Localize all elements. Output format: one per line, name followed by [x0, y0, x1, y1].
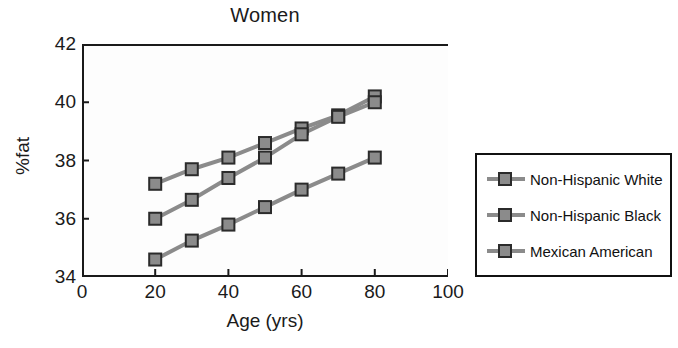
data-point-marker — [296, 184, 308, 196]
data-point-marker — [369, 96, 381, 108]
plot-area — [82, 44, 448, 277]
legend-label: Non-Hispanic White — [530, 171, 663, 188]
x-tick-label: 0 — [57, 282, 107, 301]
data-point-marker — [332, 111, 344, 123]
y-axis-title: %fat — [12, 116, 34, 196]
x-tick-label: 20 — [130, 282, 180, 301]
data-point-marker — [259, 152, 271, 164]
chart-legend: Non-Hispanic WhiteNon-Hispanic BlackMexi… — [475, 153, 672, 277]
data-point-marker — [222, 219, 234, 231]
data-point-marker — [222, 152, 234, 164]
legend-item-1[interactable]: Non-Hispanic Black — [487, 202, 670, 228]
legend-swatch-icon — [487, 171, 525, 187]
legend-marker-icon — [498, 172, 512, 186]
legend-label: Mexican American — [530, 243, 653, 260]
x-axis-title: Age (yrs) — [82, 310, 448, 332]
data-point-marker — [296, 128, 308, 140]
data-point-marker — [186, 194, 198, 206]
data-point-marker — [222, 172, 234, 184]
chart-figure: Women %fat 3436384042 020406080100 Age (… — [0, 0, 678, 348]
chart-title: Women — [82, 4, 448, 27]
y-tick-label: 38 — [40, 151, 76, 170]
y-tick-label: 42 — [40, 34, 76, 53]
data-point-marker — [149, 254, 161, 266]
data-point-marker — [259, 137, 271, 149]
legend-item-2[interactable]: Mexican American — [487, 238, 670, 264]
data-point-marker — [149, 178, 161, 190]
data-point-marker — [186, 163, 198, 175]
y-tick-label: 40 — [40, 92, 76, 111]
legend-item-0[interactable]: Non-Hispanic White — [487, 166, 670, 192]
legend-marker-icon — [498, 208, 512, 222]
legend-swatch-icon — [487, 207, 525, 223]
x-tick-label: 40 — [203, 282, 253, 301]
legend-marker-icon — [498, 244, 512, 258]
legend-swatch-icon — [487, 243, 525, 259]
legend-label: Non-Hispanic Black — [530, 207, 661, 224]
x-tick-label: 100 — [423, 282, 473, 301]
data-point-marker — [149, 213, 161, 225]
data-point-marker — [332, 168, 344, 180]
x-tick-label: 80 — [350, 282, 400, 301]
data-point-marker — [186, 235, 198, 247]
x-tick-label: 60 — [277, 282, 327, 301]
data-point-marker — [369, 152, 381, 164]
plot-canvas — [82, 44, 448, 277]
y-tick-label: 36 — [40, 209, 76, 228]
data-point-marker — [259, 201, 271, 213]
